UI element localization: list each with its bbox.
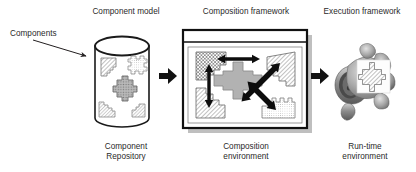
label-component-repository: Component Repository <box>80 142 172 161</box>
arrow-repository-to-composition <box>159 68 177 84</box>
component-repository-cylinder <box>95 37 149 128</box>
label-execution-framework: Execution framework <box>312 7 412 17</box>
label-runtime-environment: Run-time environment <box>320 142 410 161</box>
component-shape-center <box>113 76 137 101</box>
label-component-model: Component model <box>78 7 174 17</box>
arrow-components-to-repository <box>33 40 86 56</box>
label-composition-framework: Composition framework <box>180 7 312 17</box>
label-composition-environment: Composition environment <box>192 142 300 161</box>
component-overlay-cross <box>357 60 390 93</box>
arrow-composition-to-runtime <box>311 68 329 84</box>
composition-environment-window <box>183 30 312 133</box>
label-components: Components <box>10 29 80 39</box>
runtime-environment-photo <box>335 43 395 120</box>
component-shape-dotted-1 <box>128 56 147 74</box>
